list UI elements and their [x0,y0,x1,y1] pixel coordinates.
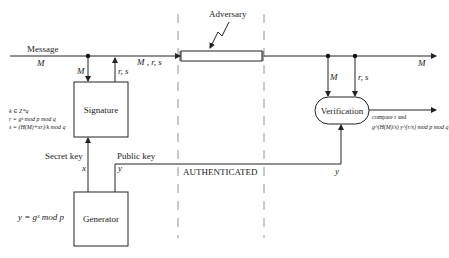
secret-key-label: Secret key [45,152,83,161]
formula-generator: y = gˣ mod p [18,213,64,222]
sig-output-rs: r, s [118,67,129,76]
public-key-var: y [118,164,122,173]
verification-text: Verification [321,106,363,116]
message-label: Message [27,45,59,54]
public-key-var-right: y [335,167,339,176]
channel-box [181,51,262,61]
channel-input-label: M , r, s [137,58,162,67]
public-key-label: Public key [117,152,155,161]
generator-text: Generator [83,214,119,224]
secret-key-var: x [82,164,86,173]
signature-box-label: Signature [74,82,128,137]
formula-verification-1: compare r and [372,114,406,120]
formula-s: s = (H(M)+xr)/k mod q [9,124,65,130]
output-M-label: M [418,59,426,68]
verification-box-label: Verification [315,97,369,124]
formula-r: r = gᵏ mod p mod q [9,116,56,122]
sig-input-M: M [77,67,85,76]
adversary-label: Adversary [209,10,247,19]
adversary-lightning-icon [210,22,229,48]
authenticated-label: AUTHENTICATED [183,168,258,177]
formula-k: k ∈ Z*q [9,108,28,114]
ver-input-M: M [330,73,338,82]
ver-input-rs: r, s [358,73,369,82]
signature-text: Signature [84,105,119,115]
message-var: M [37,59,45,68]
generator-box-label: Generator [74,192,128,246]
formula-verification-2: g^(H(M)/s) y^(r/s) mod p mod q [372,124,449,130]
